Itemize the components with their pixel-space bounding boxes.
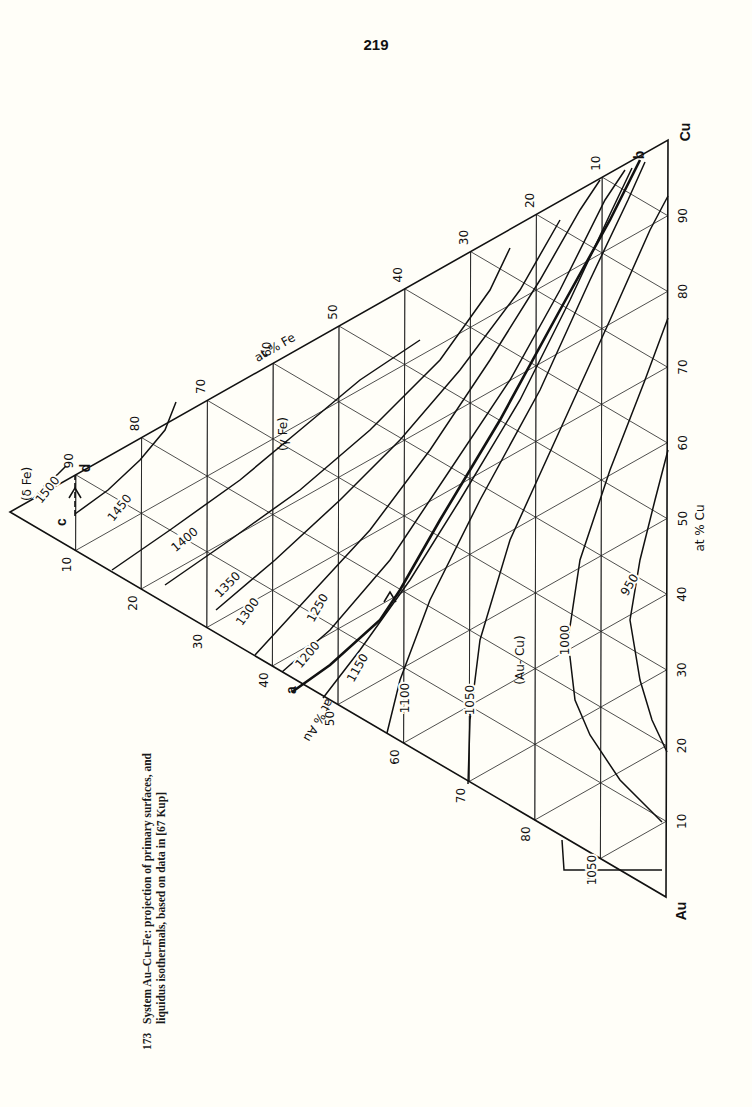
tick-label-au: 20: [126, 595, 140, 610]
grid-line-fe: [207, 400, 208, 627]
invariant-point-label: d: [77, 464, 93, 473]
isotherm-1350: [165, 248, 510, 585]
isotherm-label: 1450: [105, 491, 135, 524]
tick-label-fe: 80: [128, 416, 142, 431]
grid-line-au: [207, 367, 668, 627]
isotherm-label: 1300: [233, 595, 262, 628]
isotherm-label: 1050: [463, 685, 477, 716]
invariant-point-label: a: [283, 686, 299, 694]
tick-label-cu: 60: [676, 435, 690, 450]
isotherm-label: 1200: [292, 638, 322, 670]
isotherm-label: 1150: [344, 651, 371, 684]
liquidus-isotherms: [33, 162, 668, 870]
phase-region-label: (δ Fe): [20, 467, 34, 501]
phase-region-label: (γ Fe): [276, 417, 290, 451]
tick-label-cu: 20: [675, 738, 689, 753]
grid-line-au: [338, 326, 339, 705]
monovariant-curves: [69, 160, 640, 692]
tick-label-cu: 80: [676, 284, 690, 299]
tick-label-cu: 10: [675, 814, 689, 829]
isotherm-1400: [112, 340, 420, 570]
tick-label-fe: 10: [589, 156, 603, 171]
axis-title: at % Cu: [693, 504, 707, 551]
tick-label-cu: 30: [675, 662, 689, 677]
grid-line-cu: [339, 326, 667, 519]
tick-label-fe: 70: [194, 379, 208, 394]
isotherm-label: 1100: [398, 683, 412, 714]
isotherm-label: 1250: [304, 591, 331, 624]
apex-label-cu: Cu: [677, 123, 693, 142]
isotherm-1250: [255, 180, 600, 655]
isotherm-label: 1350: [212, 569, 243, 600]
isotherm-1200: [282, 170, 625, 672]
grid-line-au: [76, 216, 668, 551]
tick-label-cu: 70: [676, 359, 690, 374]
grid-line-au: [600, 821, 666, 858]
apex-label-au: Au: [673, 902, 689, 921]
tick-label-au: 10: [60, 557, 74, 572]
isotherm-label: 1050: [585, 855, 599, 886]
ternary-phase-diagram: 1020304050607080901020304050607080901020…: [0, 0, 752, 1107]
tick-label-fe: 50: [326, 304, 340, 319]
tick-label-fe: 40: [391, 267, 405, 282]
tick-label-au: 60: [388, 749, 402, 764]
tick-label-au: 80: [519, 826, 533, 841]
tick-label-fe: 90: [62, 453, 76, 468]
invariant-point-label: b: [631, 151, 647, 160]
tick-label-cu: 90: [676, 208, 690, 223]
grid-line-au: [469, 670, 666, 782]
isotherm-1050: [468, 196, 668, 784]
tick-label-au: 30: [191, 634, 205, 649]
isotherm-label: 1000: [558, 625, 572, 656]
tick-label-au: 70: [454, 788, 468, 803]
isotherm-950: [630, 450, 668, 752]
grid-line-cu: [76, 475, 666, 822]
tick-label-cu: 50: [676, 511, 690, 526]
grid-line-fe: [272, 363, 273, 666]
tick-label-fe: 20: [523, 193, 537, 208]
grid-line-au: [600, 177, 602, 858]
invariant-point-label: c: [53, 518, 69, 526]
isotherm-1300: [216, 220, 560, 610]
tick-label-fe: 30: [457, 230, 471, 245]
isotherm-label: 1500: [33, 473, 63, 506]
tick-label-cu: 40: [675, 587, 689, 602]
chart-labels: 1020304050607080901020304050607080901020…: [20, 123, 707, 921]
phase-region-label: (Au- Cu): [513, 635, 527, 684]
tick-label-au: 40: [257, 672, 271, 687]
isotherm-label: 1400: [168, 524, 200, 554]
